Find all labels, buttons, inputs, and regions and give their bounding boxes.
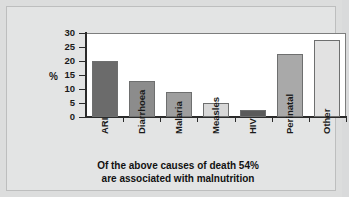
x-tick-mark <box>123 117 124 122</box>
caption-line-1: Of the above causes of death 54% <box>7 159 349 172</box>
y-tick-mark <box>79 33 85 34</box>
x-tick-label: Perinatal <box>284 94 295 134</box>
y-tick-mark <box>79 103 85 104</box>
y-tick-label: 15 <box>53 70 75 80</box>
y-tick-mark <box>79 89 85 90</box>
caption-line-2: are associated with malnutrition <box>7 172 349 185</box>
chart-card: % 302520151050 ARIDiarrhoeaMalariaMeasle… <box>6 6 336 191</box>
y-tick-label: 5 <box>53 98 75 108</box>
x-tick-mark <box>197 117 198 122</box>
x-tick-label: HIV <box>247 118 258 134</box>
y-tick-mark <box>79 47 85 48</box>
x-tick-mark <box>160 117 161 122</box>
y-tick-label: 25 <box>53 42 75 52</box>
x-tick-label: Other <box>321 109 332 134</box>
y-tick-label: 20 <box>53 56 75 66</box>
x-tick-mark <box>272 117 273 122</box>
y-tick-mark <box>79 75 85 76</box>
y-tick-mark <box>79 117 85 118</box>
x-tick-label: Measles <box>210 97 221 134</box>
bar <box>92 61 118 117</box>
x-tick-label: Diarrhoea <box>136 90 147 134</box>
y-tick-label: 10 <box>53 84 75 94</box>
x-tick-mark <box>309 117 310 122</box>
y-tick-label: 30 <box>53 28 75 38</box>
y-tick-label: 0 <box>53 112 75 122</box>
x-tick-label: Malaria <box>173 101 184 134</box>
chart-caption: Of the above causes of death 54% are ass… <box>7 159 349 185</box>
bar <box>314 40 340 117</box>
y-axis-line <box>85 32 87 117</box>
bar <box>240 110 266 117</box>
plot-frame: % 302520151050 ARIDiarrhoeaMalariaMeasle… <box>29 17 329 150</box>
x-tick-label: ARI <box>99 118 110 134</box>
x-tick-mark <box>235 117 236 122</box>
y-tick-mark <box>79 61 85 62</box>
x-tick-mark <box>346 117 347 122</box>
